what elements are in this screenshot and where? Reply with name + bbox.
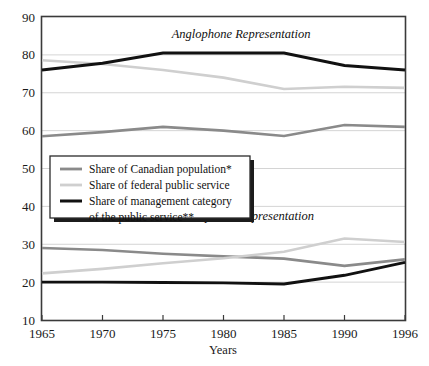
annotation-label: Anglophone Representation <box>171 27 311 41</box>
line-chart: 102030405060708090 196519701975198019851… <box>0 0 429 366</box>
series-line <box>42 248 405 266</box>
y-tick-label: 50 <box>22 161 35 176</box>
chart-canvas: 102030405060708090 196519701975198019851… <box>0 0 429 366</box>
x-axis-title: Years <box>209 343 237 357</box>
x-tick-label: 1996 <box>392 326 419 341</box>
y-tick-label: 90 <box>22 10 35 25</box>
y-tick-label: 80 <box>22 47 35 62</box>
y-axis-tick-labels: 102030405060708090 <box>22 10 35 328</box>
x-tick-label: 1965 <box>29 326 55 341</box>
x-tick-label: 1980 <box>211 326 237 341</box>
x-tick-label: 1985 <box>271 326 297 341</box>
x-tick-label: 1975 <box>150 326 176 341</box>
legend-label: of the public service** <box>89 211 194 224</box>
chart-legend: Share of Canadian population*Share of fe… <box>50 156 254 224</box>
x-axis-tick-marks <box>42 315 405 320</box>
x-axis-tick-labels: 1965197019751980198519901996 <box>29 326 419 341</box>
y-tick-label: 70 <box>22 85 35 100</box>
legend-label: Share of federal public service <box>89 179 230 192</box>
y-tick-label: 30 <box>22 237 35 252</box>
legend-label: Share of Canadian population* <box>89 163 232 176</box>
y-tick-label: 40 <box>22 199 35 214</box>
x-tick-label: 1990 <box>332 326 358 341</box>
legend-label: Share of management category <box>89 195 232 208</box>
y-tick-label: 60 <box>22 123 35 138</box>
x-tick-label: 1970 <box>90 326 116 341</box>
y-tick-label: 20 <box>22 275 35 290</box>
series-line <box>42 53 405 70</box>
